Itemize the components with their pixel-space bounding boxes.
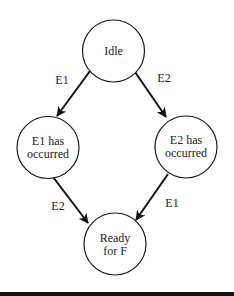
arrow-e2-to-ready (136, 174, 168, 220)
transition-label-e1-to-ready: E2 (51, 199, 64, 213)
state-e1-has-occurred: E1 has occurred (17, 117, 79, 179)
transition-idle-to-e1: E1 (55, 71, 90, 116)
bottom-border (0, 292, 234, 296)
transition-e1-to-ready: E2 (51, 177, 88, 223)
transition-label-idle-to-e2: E2 (157, 71, 170, 85)
transition-label-idle-to-e1: E1 (55, 73, 68, 87)
state-diagram: E1 E2 E2 E1 Idle E1 has occurred E2 has … (0, 0, 234, 296)
state-ready-for-f: Ready for F (84, 213, 146, 275)
state-label-ready-line2: for F (103, 244, 127, 258)
transition-e2-to-ready: E1 (136, 174, 179, 220)
transition-label-e2-to-ready: E1 (165, 196, 178, 210)
state-label-idle: Idle (104, 44, 123, 58)
transition-idle-to-e2: E2 (135, 71, 171, 117)
state-e2-has-occurred: E2 has occurred (155, 116, 217, 178)
state-label-e2-line2: occurred (165, 146, 207, 160)
state-label-e1-line1: E1 has (32, 134, 65, 148)
state-label-e1-line2: occurred (27, 147, 69, 161)
state-idle: Idle (83, 20, 145, 82)
state-label-e2-line1: E2 has (170, 133, 203, 147)
state-label-ready-line1: Ready (100, 231, 131, 245)
